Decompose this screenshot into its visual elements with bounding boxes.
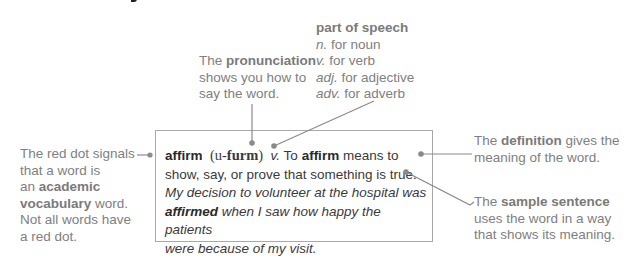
part-of-speech-leader xyxy=(274,101,374,146)
leader-lines xyxy=(0,0,629,258)
sample-sentence-leader xyxy=(406,172,474,205)
leader-dot xyxy=(148,153,152,157)
